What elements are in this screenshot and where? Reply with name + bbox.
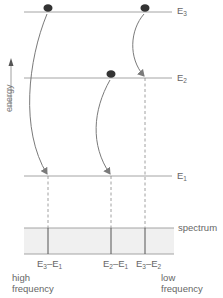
spectrum-label: spectrum bbox=[178, 222, 217, 233]
transition-arrow-e3-e1 bbox=[30, 14, 47, 174]
level-label-e2: E2 bbox=[177, 72, 187, 86]
transition-arrow-e2-e1 bbox=[96, 80, 110, 174]
level-label-e1: E1 bbox=[177, 170, 187, 184]
energy-level-diagram bbox=[0, 0, 223, 298]
transition-label-e3-e1: E3–E1 bbox=[37, 258, 62, 272]
electron-dot-e3-right bbox=[141, 4, 150, 12]
transition-label-e2-e1: E2–E1 bbox=[103, 258, 128, 272]
energy-axis-label: energy bbox=[4, 84, 14, 112]
transition-arrow-e3-e2 bbox=[133, 14, 144, 76]
level-label-e3: E3 bbox=[177, 5, 187, 19]
low-frequency-label: lowfrequency bbox=[161, 272, 203, 294]
electron-dot-e3-left bbox=[44, 4, 53, 12]
transition-label-e3-e2: E3–E2 bbox=[136, 258, 161, 272]
electron-dot-e2 bbox=[107, 70, 116, 78]
high-frequency-label: highfrequency bbox=[12, 272, 54, 294]
spectrum-band bbox=[24, 228, 174, 254]
